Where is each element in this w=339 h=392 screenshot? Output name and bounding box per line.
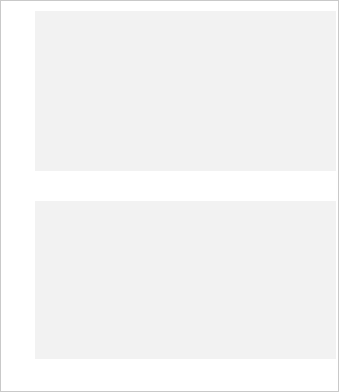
chart-panel-bottom (1, 193, 339, 391)
y-axis-ticks-top (15, 3, 33, 191)
figure-container (0, 0, 339, 392)
y-axis-ticks-bottom (15, 193, 33, 391)
bar-series-bottom (35, 201, 336, 359)
plot-area-top (35, 11, 336, 171)
bar-series-top (35, 11, 336, 171)
chart-panel-top (1, 3, 339, 191)
plot-area-bottom (35, 201, 336, 359)
